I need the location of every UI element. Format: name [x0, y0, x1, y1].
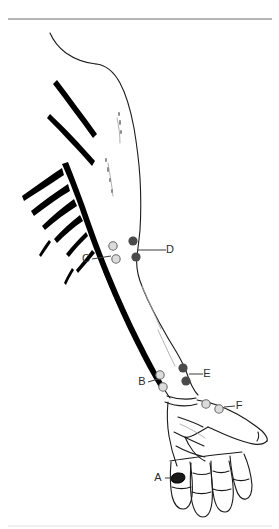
- finger-index: [170, 462, 192, 509]
- marker-D-dot-1[interactable]: [128, 236, 137, 245]
- nerve-twig-4: [64, 268, 74, 285]
- marker-label-B: B: [138, 375, 145, 387]
- wrist-crease: [167, 396, 196, 399]
- marker-label-D: D: [166, 243, 174, 255]
- finger-ring: [211, 461, 233, 512]
- finger-middle-joint: [192, 492, 211, 494]
- palm-crease-thenar: [178, 417, 203, 427]
- marker-label-F: F: [236, 399, 243, 411]
- finger-index-joint: [172, 487, 191, 489]
- hand-ulnar-border: [167, 402, 177, 466]
- forearm-faint-line-2: [142, 286, 161, 329]
- thumb-tip-notch: [257, 432, 259, 441]
- upper-arm-lateral-contour: [96, 64, 141, 256]
- stipple-7: [111, 189, 113, 193]
- finger-middle: [190, 463, 212, 517]
- finger-ring-joint: [213, 489, 231, 491]
- marker-C-dot-2[interactable]: [112, 255, 120, 263]
- arm-outline-group: [50, 33, 267, 517]
- arm-illustration-canvas: ABCDEF: [0, 0, 279, 529]
- finger-little-joint: [233, 479, 249, 481]
- nerve-branch-left-4: [54, 215, 83, 243]
- anatomy-figure: ABCDEF: [0, 0, 279, 529]
- leader-line-F: [224, 406, 235, 407]
- marker-C-dot-1[interactable]: [109, 242, 117, 250]
- marker-D-dot-2[interactable]: [131, 252, 140, 261]
- stipple-1: [118, 112, 120, 116]
- stipple-4: [105, 158, 107, 162]
- stipple-6: [109, 178, 111, 182]
- marker-E-dot-1[interactable]: [178, 363, 187, 372]
- finger-middle-joint-2: [193, 473, 210, 475]
- finger-ring-joint-2: [213, 471, 229, 473]
- marker-B-dot-1[interactable]: [156, 371, 164, 379]
- nerve-twig-3: [39, 240, 51, 257]
- marker-E-dot-2[interactable]: [181, 376, 190, 385]
- stipple-3: [120, 130, 122, 134]
- shading-stipple-group: [105, 112, 122, 193]
- knuckle-line: [170, 452, 242, 461]
- marker-label-A: A: [154, 471, 162, 483]
- nerve-tree-group: [22, 80, 164, 387]
- marker-label-C: C: [82, 252, 90, 264]
- arm-faint-detail-group: [108, 118, 205, 438]
- marker-B-dot-2[interactable]: [159, 383, 167, 391]
- wrist-crease-2: [165, 402, 197, 406]
- marker-group: [109, 236, 223, 484]
- stipple-2: [119, 120, 121, 125]
- stipple-5: [107, 167, 109, 172]
- marker-label-E: E: [203, 367, 210, 379]
- marker-A[interactable]: [170, 472, 186, 485]
- shoulder-contour: [50, 33, 96, 64]
- marker-F-dot-2[interactable]: [215, 405, 223, 413]
- marker-F-dot-1[interactable]: [202, 400, 210, 408]
